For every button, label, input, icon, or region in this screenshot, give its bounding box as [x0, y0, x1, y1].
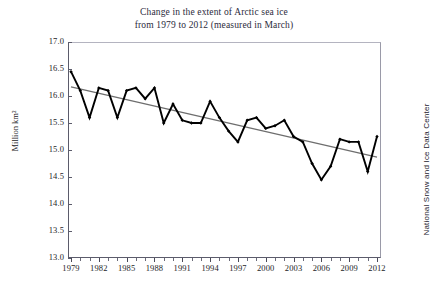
- x-tick-mark: [173, 258, 174, 261]
- y-axis-title: Million km²: [10, 86, 20, 176]
- x-tick-mark: [358, 258, 359, 261]
- y-tick-label: 14.5: [30, 171, 64, 181]
- x-tick-mark: [312, 258, 313, 261]
- x-tick-mark: [71, 258, 72, 262]
- y-tick-label: 17.0: [30, 36, 64, 46]
- x-tick-label: 2012: [359, 263, 395, 273]
- data-series-line: [71, 72, 377, 180]
- x-tick-mark: [377, 258, 378, 262]
- x-tick-mark: [331, 258, 332, 261]
- y-tick-label: 13.5: [30, 225, 64, 235]
- x-tick-mark: [117, 258, 118, 261]
- x-tick-mark: [80, 258, 81, 261]
- x-tick-mark: [266, 258, 267, 262]
- chart-title-line-2: from 1979 to 2012 (measured in March): [0, 19, 428, 32]
- x-tick-mark: [275, 258, 276, 261]
- x-tick-mark: [201, 258, 202, 261]
- trend-line: [71, 87, 377, 157]
- chart-title: Change in the extent of Arctic sea ice f…: [0, 6, 428, 32]
- x-tick-mark: [247, 258, 248, 261]
- x-tick-mark: [303, 258, 304, 261]
- x-tick-mark: [164, 258, 165, 261]
- x-tick-mark: [349, 258, 350, 262]
- x-tick-mark: [99, 258, 100, 262]
- y-tick-label: 16.0: [30, 90, 64, 100]
- y-axis-ticks: 17.016.516.015.515.014.514.013.513.0: [24, 0, 64, 287]
- x-tick-mark: [238, 258, 239, 262]
- chart-title-line-1: Change in the extent of Arctic sea ice: [0, 6, 428, 19]
- y-tick-label: 13.0: [30, 252, 64, 262]
- source-credit-label: National Snow and Ice Data Center: [422, 100, 431, 240]
- x-tick-mark: [182, 258, 183, 262]
- y-tick-label: 14.0: [30, 198, 64, 208]
- x-tick-mark: [284, 258, 285, 261]
- x-tick-mark: [368, 258, 369, 261]
- x-tick-mark: [192, 258, 193, 261]
- x-tick-mark: [127, 258, 128, 262]
- x-tick-mark: [210, 258, 211, 262]
- x-tick-mark: [154, 258, 155, 262]
- y-tick-label: 15.0: [30, 144, 64, 154]
- x-tick-mark: [108, 258, 109, 261]
- x-tick-mark: [145, 258, 146, 261]
- x-tick-mark: [229, 258, 230, 261]
- x-tick-mark: [219, 258, 220, 261]
- x-tick-mark: [136, 258, 137, 261]
- y-tick-label: 16.5: [30, 63, 64, 73]
- x-tick-mark: [321, 258, 322, 262]
- x-tick-mark: [294, 258, 295, 262]
- y-tick-label: 15.5: [30, 117, 64, 127]
- x-tick-mark: [340, 258, 341, 261]
- x-tick-mark: [256, 258, 257, 261]
- data-plot: [68, 42, 381, 258]
- x-tick-mark: [90, 258, 91, 261]
